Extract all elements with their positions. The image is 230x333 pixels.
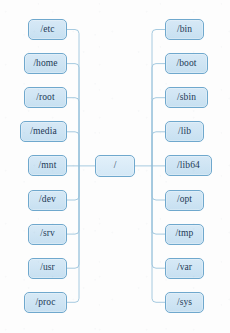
node-label: /bin bbox=[177, 24, 192, 34]
node-lib[interactable]: /lib bbox=[165, 121, 204, 142]
node-label: /sbin bbox=[177, 93, 196, 103]
node-bin[interactable]: /bin bbox=[165, 19, 204, 40]
node-label: /var bbox=[177, 263, 192, 273]
connector-lib bbox=[152, 132, 165, 166]
node-home[interactable]: /home bbox=[24, 53, 67, 74]
node-label: /media bbox=[30, 127, 56, 137]
node-root[interactable]: /root bbox=[24, 87, 67, 108]
node-label: /sys bbox=[177, 297, 192, 307]
node-dev[interactable]: /dev bbox=[28, 190, 67, 211]
connector-opt bbox=[152, 166, 165, 200]
node-label: /lib64 bbox=[177, 161, 200, 171]
node-label: /lib bbox=[178, 127, 191, 137]
connector-boot bbox=[152, 64, 165, 166]
node-srv[interactable]: /srv bbox=[28, 224, 67, 245]
connector-bin bbox=[152, 30, 165, 166]
connector-root bbox=[67, 98, 79, 166]
connector-tmp bbox=[152, 166, 165, 234]
node-label: /usr bbox=[40, 263, 55, 273]
connector-media bbox=[67, 132, 79, 166]
right-connectors bbox=[135, 30, 165, 303]
node-usr[interactable]: /usr bbox=[28, 258, 67, 279]
node-label: /opt bbox=[177, 195, 192, 205]
node-label: /mnt bbox=[39, 161, 57, 171]
node-label: /boot bbox=[176, 59, 196, 68]
node-label: /srv bbox=[40, 229, 55, 239]
node-tmp[interactable]: /tmp bbox=[165, 224, 204, 245]
filesystem-tree-diagram: //etc/home/root/media/mnt/dev/srv/usr/pr… bbox=[0, 0, 230, 333]
connector-sbin bbox=[152, 98, 165, 166]
node-label: /home bbox=[33, 59, 57, 68]
connector-dev bbox=[67, 166, 79, 200]
left-connectors bbox=[67, 30, 95, 303]
connector-usr bbox=[67, 166, 79, 268]
node-mnt[interactable]: /mnt bbox=[28, 155, 67, 176]
node-etc[interactable]: /etc bbox=[28, 19, 67, 40]
node-var[interactable]: /var bbox=[165, 258, 204, 279]
node-sys[interactable]: /sys bbox=[165, 292, 204, 313]
node-label: / bbox=[114, 161, 117, 171]
connector-home bbox=[67, 64, 79, 166]
node-boot[interactable]: /boot bbox=[165, 53, 208, 74]
node-proc[interactable]: /proc bbox=[24, 292, 67, 313]
node-label: /root bbox=[36, 93, 54, 103]
node-root-directory[interactable]: / bbox=[95, 155, 135, 177]
node-lib64[interactable]: /lib64 bbox=[165, 155, 212, 176]
connector-srv bbox=[67, 166, 79, 234]
node-sbin[interactable]: /sbin bbox=[165, 87, 208, 108]
connector-etc bbox=[67, 30, 79, 166]
connector-var bbox=[152, 166, 165, 268]
connector-proc bbox=[67, 166, 79, 302]
node-label: /etc bbox=[40, 24, 54, 34]
node-label: /proc bbox=[35, 297, 55, 307]
node-label: /dev bbox=[39, 195, 56, 205]
node-media[interactable]: /media bbox=[20, 121, 67, 142]
node-label: /tmp bbox=[176, 229, 194, 239]
node-opt[interactable]: /opt bbox=[165, 190, 204, 211]
connector-sys bbox=[152, 166, 165, 302]
